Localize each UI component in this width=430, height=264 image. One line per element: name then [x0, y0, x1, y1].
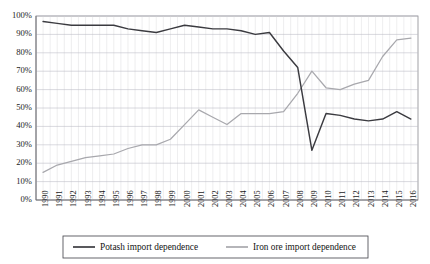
- y-axis-tick-label: 40%: [16, 120, 32, 130]
- y-axis-tick-label: 10%: [16, 176, 32, 186]
- y-axis-tick-label: 30%: [16, 139, 32, 149]
- x-axis-tick-label: 1996: [126, 190, 135, 207]
- x-axis-tick-label: 1997: [140, 190, 149, 207]
- y-axis-tick-label: 60%: [16, 84, 32, 94]
- x-axis-tick-label: 2016: [409, 190, 418, 207]
- x-axis-tick-label: 2003: [225, 190, 234, 207]
- y-axis-tick-label: 100%: [12, 10, 32, 20]
- x-axis-tick-label: 2007: [282, 190, 291, 207]
- x-axis-tick-label: 1998: [154, 190, 163, 207]
- x-axis-tick-label: 1994: [98, 189, 107, 207]
- legend-label-potash: Potash import dependence: [100, 242, 198, 252]
- x-axis-tick-label: 1990: [41, 190, 50, 207]
- x-axis-tick-label: 1995: [112, 190, 121, 207]
- x-axis-tick-label: 2012: [352, 190, 361, 207]
- x-axis-tick-label: 1992: [69, 190, 78, 207]
- x-axis-tick-label: 2006: [267, 190, 276, 207]
- x-axis-tick-label: 2002: [211, 190, 220, 207]
- x-axis-tick-label: 1999: [168, 190, 177, 207]
- y-axis-tick-label: 0%: [21, 194, 32, 204]
- x-axis-tick-label: 2011: [338, 191, 347, 207]
- x-axis-tick-label: 2013: [367, 190, 376, 207]
- x-axis-tick-label: 2010: [324, 190, 333, 207]
- x-axis-tick-label: 2005: [253, 190, 262, 207]
- x-axis-tick-label: 2000: [183, 190, 192, 207]
- chart-figure: 0%10%20%30%40%50%60%70%80%90%100% 199019…: [0, 0, 430, 264]
- x-axis-tick-label: 2014: [381, 189, 390, 207]
- chart-legend: Potash import dependence Iron ore import…: [63, 236, 368, 258]
- x-axis-tick-label: 1993: [84, 190, 93, 207]
- x-axis-tick-label: 2015: [395, 190, 404, 207]
- x-axis-tick-label: 2009: [310, 190, 319, 207]
- y-axis-tick-label: 90%: [16, 28, 32, 38]
- line-chart: 0%10%20%30%40%50%60%70%80%90%100% 199019…: [0, 0, 430, 264]
- x-axis-tick-label: 2004: [239, 189, 248, 207]
- y-axis-tick-label: 70%: [16, 65, 32, 75]
- x-axis-tick-label: 1991: [55, 190, 64, 207]
- y-axis-tick-label: 50%: [16, 102, 32, 112]
- y-axis-tick-label: 80%: [16, 47, 32, 57]
- legend-label-iron-ore: Iron ore import dependence: [253, 242, 356, 252]
- y-axis-tick-label: 20%: [16, 157, 32, 167]
- x-axis-tick-label: 2008: [296, 190, 305, 207]
- x-axis-tick-label: 2001: [197, 190, 206, 207]
